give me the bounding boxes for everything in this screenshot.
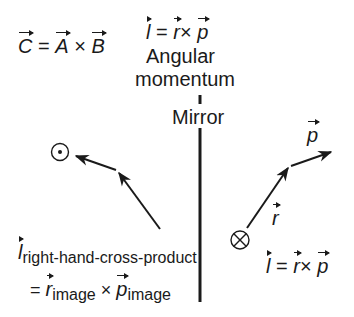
subscript-right-hand-cross-product: right-hand-cross-product xyxy=(22,249,196,266)
vector-p-image: p xyxy=(116,279,127,299)
vector-r: r xyxy=(173,22,180,42)
cross-operator: × xyxy=(69,35,92,57)
right-hand-cross-product-label: lright-hand-cross-product xyxy=(18,242,197,262)
vector-p: p xyxy=(197,22,208,42)
vector-p: p xyxy=(317,256,328,276)
r-image-arrow xyxy=(119,173,160,229)
momentum-label: momentum xyxy=(135,69,235,89)
equals-sign: = xyxy=(270,255,293,277)
vector-c: C xyxy=(18,36,32,56)
r-arrow xyxy=(247,168,288,228)
p-arrow xyxy=(291,152,331,166)
vector-r: r xyxy=(293,256,300,276)
subscript-image: image xyxy=(52,286,96,303)
subscript-image: image xyxy=(127,286,171,303)
r-vector-label: r xyxy=(272,208,279,228)
p-vector-label: p xyxy=(307,125,318,145)
vector-a: A xyxy=(55,36,68,56)
equals-sign: = xyxy=(30,280,46,300)
right-side-equation: l = r× p xyxy=(266,256,328,276)
p-image-arrow xyxy=(76,156,116,170)
vector-l: l xyxy=(146,22,150,42)
cross-in-circle-icon xyxy=(231,231,249,249)
equals-sign: = xyxy=(150,21,173,43)
cross-operator: × xyxy=(300,255,317,277)
cross-product-equation: C = A × B xyxy=(18,36,105,56)
cross-operator: × xyxy=(180,21,197,43)
angular-label: Angular xyxy=(146,46,215,66)
vector-l: l xyxy=(266,256,270,276)
cross-operator: × xyxy=(96,280,117,300)
equals-sign: = xyxy=(32,35,55,57)
dot-in-circle-icon xyxy=(52,144,69,161)
image-cross-product-equation: = rimage × pimage xyxy=(30,279,171,299)
vector-p: p xyxy=(307,125,318,145)
vector-r: r xyxy=(272,208,279,228)
vector-b: B xyxy=(91,36,104,56)
mirror-label: Mirror xyxy=(172,107,224,127)
angular-momentum-definition: l = r× p xyxy=(146,22,208,42)
